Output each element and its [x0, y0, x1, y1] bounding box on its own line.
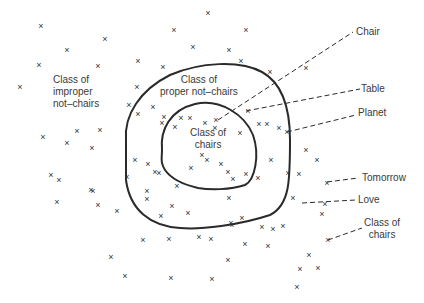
love-callout-line [302, 200, 356, 203]
x-mark-icon: × [237, 57, 245, 65]
x-mark-icon: × [53, 198, 61, 206]
planet-callout-label: Planet [358, 107, 386, 119]
x-mark-icon: × [279, 222, 287, 230]
x-mark-icon: × [149, 103, 157, 111]
x-mark-icon: × [189, 43, 197, 51]
x-mark-icon: × [37, 22, 45, 30]
x-mark-icon: × [238, 214, 246, 222]
x-mark-icon: × [225, 46, 233, 54]
x-mark-icon: × [313, 156, 321, 164]
class-of-chairs-callout-line [328, 228, 362, 240]
planet-callout-line [287, 115, 356, 132]
x-mark-icon: × [283, 128, 291, 136]
x-mark-icon: × [35, 61, 43, 69]
x-mark-icon: × [267, 156, 275, 164]
x-mark-icon: × [324, 236, 332, 244]
x-mark-icon: × [134, 110, 142, 118]
x-mark-icon: × [173, 182, 181, 190]
x-mark-icon: × [242, 26, 250, 34]
x-mark-icon: × [123, 173, 131, 181]
x-mark-icon: × [171, 123, 179, 131]
x-mark-icon: × [39, 133, 47, 141]
x-mark-icon: × [289, 194, 297, 202]
chair-callout-label: Chair [356, 26, 380, 38]
table-callout-line [246, 89, 360, 111]
class-of-chairs-callout-label: Class of chairs [364, 217, 400, 241]
x-mark-icon: × [168, 202, 176, 210]
x-mark-icon: × [204, 9, 212, 17]
tomorrow-callout-label: Tomorrow [362, 172, 406, 184]
x-mark-icon: × [96, 126, 104, 134]
x-mark-icon: × [158, 119, 166, 127]
x-mark-icon: × [208, 275, 216, 283]
x-mark-icon: × [107, 253, 115, 261]
x-mark-icon: × [241, 240, 249, 248]
x-mark-icon: × [151, 168, 159, 176]
x-mark-icon: × [236, 129, 244, 137]
x-mark-icon: × [134, 57, 142, 65]
x-mark-icon: × [94, 62, 102, 70]
x-mark-icon: × [73, 127, 81, 135]
x-mark-icon: × [165, 235, 173, 243]
x-mark-icon: × [284, 169, 292, 177]
x-mark-icon: × [275, 124, 283, 132]
x-mark-icon: × [55, 176, 63, 184]
x-mark-icon: × [94, 201, 102, 209]
x-mark-icon: × [143, 195, 151, 203]
x-mark-icon: × [144, 160, 152, 168]
x-mark-icon: × [225, 194, 233, 202]
x-mark-icon: × [229, 175, 237, 183]
x-mark-icon: × [293, 283, 301, 291]
x-mark-icon: × [264, 242, 272, 250]
x-mark-icon: × [16, 83, 24, 91]
x-mark-icon: × [321, 200, 329, 208]
x-mark-icon: × [323, 179, 331, 187]
x-mark-icon: × [47, 171, 55, 179]
x-mark-icon: × [217, 160, 225, 168]
x-mark-icon: × [195, 233, 203, 241]
x-mark-icon: × [170, 26, 178, 34]
x-mark-icon: × [269, 225, 277, 233]
x-mark-icon: × [159, 63, 167, 71]
x-mark-icon: × [314, 264, 322, 272]
x-mark-icon: × [302, 64, 310, 72]
x-mark-icon: × [224, 256, 232, 264]
proper-not-chairs-label: Class of proper not–chairs [160, 74, 238, 98]
x-mark-icon: × [242, 170, 250, 178]
improper-not-chairs-label: Class of improper not–chairs [53, 74, 99, 110]
chairs-region-label: Class of chairs [190, 127, 226, 151]
x-mark-icon: × [63, 46, 71, 54]
x-mark-icon: × [167, 274, 175, 282]
x-mark-icon: × [157, 212, 165, 220]
x-mark-icon: × [139, 236, 147, 244]
x-mark-icon: × [228, 221, 236, 229]
x-mark-icon: × [198, 151, 206, 159]
table-callout-label: Table [361, 83, 385, 95]
x-mark-icon: × [121, 272, 129, 280]
x-mark-icon: × [63, 139, 71, 147]
x-mark-icon: × [302, 146, 310, 154]
x-mark-icon: × [207, 235, 215, 243]
x-mark-icon: × [125, 101, 133, 109]
x-mark-icon: × [133, 83, 141, 91]
x-mark-icon: × [186, 114, 194, 122]
x-mark-icon: × [113, 207, 121, 215]
x-mark-icon: × [131, 156, 139, 164]
x-mark-icon: × [88, 144, 96, 152]
x-mark-icon: × [255, 120, 263, 128]
x-mark-icon: × [266, 68, 274, 76]
x-mark-icon: × [254, 174, 262, 182]
x-mark-icon: × [318, 210, 326, 218]
x-mark-icon: × [184, 209, 192, 217]
love-callout-label: Love [358, 194, 380, 206]
diagram-canvas: ××××××××××××××××××××××××××××××××××××××××… [0, 0, 424, 303]
x-mark-icon: × [177, 114, 185, 122]
x-mark-icon: × [89, 187, 97, 195]
x-mark-icon: × [187, 164, 195, 172]
x-mark-icon: × [101, 35, 109, 43]
x-mark-icon: × [296, 265, 304, 273]
tomorrow-callout-line [327, 178, 358, 182]
x-mark-icon: × [258, 223, 266, 231]
x-mark-icon: × [201, 119, 209, 127]
x-mark-icon: × [263, 120, 271, 128]
